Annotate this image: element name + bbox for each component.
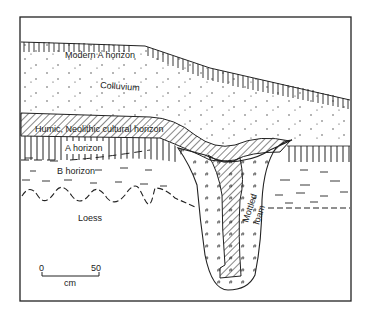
scale-end: 50 <box>91 263 101 273</box>
label-b-horizon: B horizon <box>57 166 95 176</box>
loess-boundary <box>22 186 195 207</box>
soil-section-diagram: # Modern A horizon Colluvium Humic, Neol… <box>0 0 369 317</box>
scale-unit: cm <box>64 278 76 288</box>
label-humic: Humic, Neolithic cultural horizon <box>35 124 164 134</box>
label-a-horizon: A horizon <box>65 143 103 153</box>
scale-start: 0 <box>39 263 44 273</box>
scale-bar: 0 50 cm <box>39 263 101 288</box>
label-modern-a: Modern A horizon <box>65 50 135 60</box>
label-loess: Loess <box>78 213 103 223</box>
a-horizon-right <box>287 146 350 162</box>
b-horizon-dashes <box>22 158 348 203</box>
